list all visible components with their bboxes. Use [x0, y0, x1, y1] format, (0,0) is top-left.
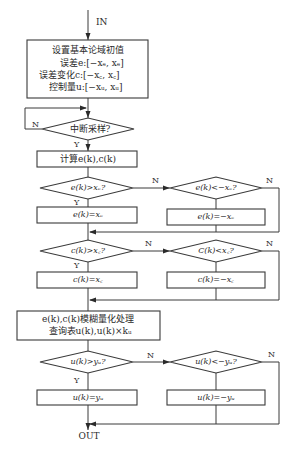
interrupt-decision-text: 中断采样? — [70, 125, 111, 134]
change-lower-no-label: N — [266, 240, 273, 248]
arrowhead-icon — [163, 360, 170, 365]
control-clamp-lower-text: u(k)=−yᵤ — [197, 394, 234, 402]
fuzzy-box-line1: e(k),c(k)模糊量化处理 — [42, 315, 134, 324]
change-upper-decision-text: c(k)>x꜀? — [71, 247, 105, 255]
arrowhead-icon — [89, 298, 96, 303]
arrowhead-icon — [163, 249, 170, 254]
arrowhead-icon — [80, 106, 87, 111]
arrowhead-icon — [86, 111, 91, 118]
arrowhead-icon — [86, 33, 91, 40]
control-upper-decision-text: u(k)>yᵤ? — [71, 358, 106, 366]
init-box-error-change-range: 误差变化c:[−x꜀, x꜀] — [39, 71, 120, 80]
error-clamp-upper-text: e(k)=xₑ — [73, 211, 103, 219]
error-upper-no-label: N — [152, 177, 159, 185]
control-clamp-upper-text: u(k)=yᵤ — [73, 394, 104, 402]
change-upper-yes-label: Y — [74, 262, 79, 270]
init-box-error-range: 误差e:[−xₑ, xₑ] — [60, 59, 124, 68]
control-upper-yes-label: Y — [74, 377, 79, 385]
interrupt-yes-label: Y — [74, 141, 79, 149]
error-lower-decision-text: e(k)<−xₑ? — [195, 184, 236, 192]
change-upper-no-label: N — [145, 240, 152, 248]
exit-label: OUT — [79, 432, 100, 441]
error-upper-decision-text: e(k)>xₑ? — [71, 184, 105, 192]
flowchart-canvas — [0, 0, 295, 455]
init-box-control-range: 控制量u:[−xᵤ, xᵤ] — [49, 83, 122, 92]
arrowhead-icon — [86, 144, 91, 151]
change-clamp-upper-text: c(k)=x꜀ — [73, 276, 103, 284]
control-lower-decision-text: u(k)<−yᵤ? — [195, 358, 237, 366]
arrowhead-icon — [163, 186, 170, 191]
change-lower-decision-text: C(k)<x꜀? — [198, 247, 234, 255]
interrupt-no-label: N — [32, 121, 39, 129]
control-lower-no-label: N — [268, 351, 275, 359]
init-box-title: 设置基本论域初值 — [52, 46, 124, 55]
error-upper-yes-label: Y — [74, 199, 79, 207]
fuzzy-box-line2: 查询表u(k),u(k)×kᵤ — [49, 327, 132, 336]
compute-box-text: 计算e(k),c(k) — [60, 155, 116, 164]
arrowhead-icon — [86, 423, 91, 430]
error-lower-no-label: N — [266, 177, 273, 185]
error-clamp-lower-text: e(k)=−xₑ — [198, 213, 235, 221]
arrowhead-icon — [89, 230, 96, 235]
entry-label: IN — [96, 18, 107, 27]
change-clamp-lower-text: c(k)=−x꜀ — [198, 276, 235, 284]
control-upper-no-label: N — [147, 352, 154, 360]
